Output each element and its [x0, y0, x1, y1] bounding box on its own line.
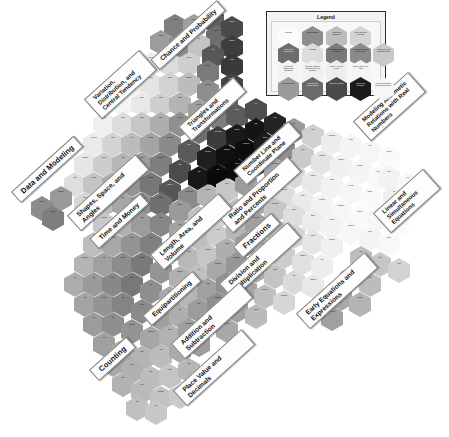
hex-cell[interactable]: elim	[388, 258, 410, 283]
legend-box: Legend CountingEquipartitioningAddition …	[266, 11, 386, 96]
hex-cell[interactable]: origin	[340, 134, 362, 159]
hex-cell-label: one	[64, 272, 86, 297]
hex-cell-label: quadrant	[321, 130, 343, 155]
hex-cell-label: elim	[388, 258, 410, 283]
legend-title: Legend	[267, 14, 385, 20]
hex-cell-label: extend	[349, 292, 371, 317]
hex-cell-label: unknown	[273, 290, 295, 315]
hex-cell[interactable]: one	[64, 272, 86, 297]
hex-cell[interactable]: unknown	[273, 290, 295, 315]
hex-cell[interactable]: axis	[302, 124, 324, 149]
hex-cell-label: half	[150, 212, 172, 237]
hex-cell[interactable]: borrow	[302, 230, 324, 255]
hex-cell[interactable]: balance	[321, 234, 343, 259]
hex-cell-label: origin	[340, 134, 362, 159]
hex-cell[interactable]: real	[359, 140, 381, 165]
hex-cell[interactable]: half	[150, 212, 172, 237]
hex-cell-label: balance	[321, 234, 343, 259]
hex-cell-label: real	[359, 140, 381, 165]
hex-cell[interactable]: extend	[349, 292, 371, 317]
hex-cell-label: borrow	[302, 230, 324, 255]
hex-cell[interactable]: quadrant	[321, 130, 343, 155]
legend-grid: CountingEquipartitioningAddition and Sub…	[271, 21, 381, 92]
hexmap-figure: eventoutcomelikelihoodsamplechancerandom…	[0, 0, 449, 437]
hex-cell-label: axis	[302, 124, 324, 149]
